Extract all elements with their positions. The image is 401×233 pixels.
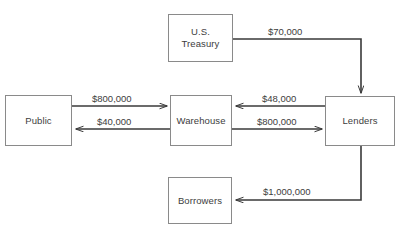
edge-label-warehouse-to-lenders: $800,000 [257,116,297,127]
node-label-public: Public [25,115,51,127]
edge-label-lenders-to-borrowers: $1,000,000 [263,186,311,197]
node-borrowers[interactable]: Borrowers [168,177,232,224]
node-warehouse[interactable]: Warehouse [170,95,232,146]
node-us-treasury[interactable]: U.S. Treasury [168,14,233,62]
node-label-warehouse: Warehouse [176,115,225,127]
edge-label-treasury-to-lenders: $70,000 [268,26,302,37]
edge-label-lenders-to-warehouse: $48,000 [262,93,296,104]
flow-diagram-canvas: U.S. Treasury Public Warehouse Lenders B… [0,0,401,233]
edge-treasury-to-lenders [233,39,361,93]
node-label-lenders: Lenders [342,115,377,127]
node-label-borrowers: Borrowers [178,195,222,207]
edge-label-warehouse-to-public: $40,000 [97,116,131,127]
edge-label-public-to-warehouse: $800,000 [92,93,132,104]
node-lenders[interactable]: Lenders [325,96,395,146]
node-label-us-treasury: U.S. Treasury [182,26,220,50]
node-public[interactable]: Public [5,95,72,146]
